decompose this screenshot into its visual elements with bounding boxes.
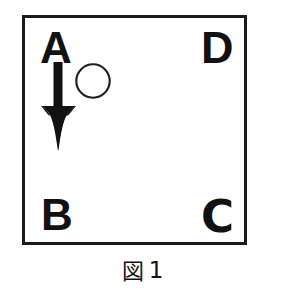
figure-caption: 図1 [0, 258, 285, 284]
corner-label-d: D [201, 25, 234, 70]
corner-label-b: B [41, 193, 73, 237]
circle-outline-icon [74, 62, 112, 100]
caption-number: 1 [149, 257, 164, 283]
corner-label-c: C [201, 194, 234, 239]
figure-diagram: A D B C 図1 [0, 0, 285, 294]
caption-kanji: 図 [122, 259, 144, 284]
